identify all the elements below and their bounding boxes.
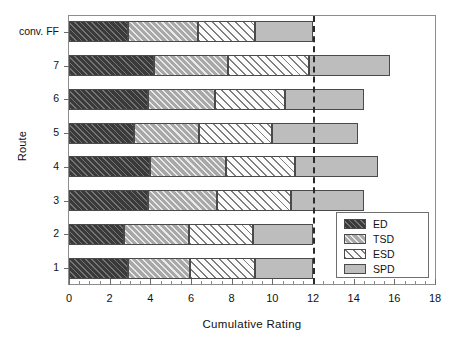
x-tick-major — [232, 279, 233, 285]
x-tick-minor — [405, 281, 406, 285]
x-tick-label: 4 — [137, 292, 163, 304]
x-tick-major — [394, 279, 395, 285]
legend-swatch-esd — [344, 249, 366, 259]
legend-item: TSD — [344, 232, 428, 246]
x-tick-label: 2 — [97, 292, 123, 304]
bar-segment-tsd — [154, 55, 227, 76]
y-tick-label: 2 — [0, 227, 59, 239]
x-tick-major — [435, 279, 436, 285]
x-tick-minor — [222, 281, 223, 285]
x-tick-minor — [425, 281, 426, 285]
legend-swatch-ed — [344, 219, 366, 229]
bar-segment-spd — [255, 21, 313, 42]
y-tick-label: conv. FF — [0, 25, 59, 37]
y-tick-label: 3 — [0, 194, 59, 206]
bar-segment-tsd — [148, 190, 217, 211]
bar-segment-ed — [69, 123, 134, 144]
legend-swatch-spd — [344, 264, 366, 274]
bar-segment-tsd — [124, 224, 189, 245]
bar-segment-spd — [253, 224, 313, 245]
y-tick-label: 5 — [0, 126, 59, 138]
x-axis-title: Cumulative Rating — [69, 318, 435, 330]
y-tick-label: 6 — [0, 92, 59, 104]
x-tick-major — [110, 279, 111, 285]
y-tick-label: 1 — [0, 261, 59, 273]
x-tick-major — [150, 279, 151, 285]
x-tick-label: 16 — [381, 292, 407, 304]
y-axis-title: Route — [16, 106, 28, 186]
bar-segment-esd — [190, 258, 255, 279]
bar-segment-ed — [69, 258, 128, 279]
legend-label-esd: ESD — [373, 249, 395, 260]
x-tick-label: 12 — [300, 292, 326, 304]
x-tick-minor — [120, 281, 121, 285]
x-tick-minor — [323, 281, 324, 285]
x-tick-label: 0 — [56, 292, 82, 304]
legend-label-ed: ED — [373, 219, 388, 230]
x-tick-minor — [344, 281, 345, 285]
bar-segment-ed — [69, 224, 124, 245]
x-tick-minor — [79, 281, 80, 285]
x-tick-minor — [303, 281, 304, 285]
bar-segment-spd — [255, 258, 313, 279]
legend-item: ED — [344, 217, 428, 231]
bar-segment-spd — [291, 190, 364, 211]
x-tick-major — [354, 279, 355, 285]
x-tick-major — [191, 279, 192, 285]
bar-segment-tsd — [128, 21, 198, 42]
x-tick-minor — [374, 281, 375, 285]
bar-row — [69, 21, 435, 42]
stacked-bar-chart: Route 024681012141618conv. FF7654321 Cum… — [0, 0, 465, 348]
bar-segment-tsd — [128, 258, 190, 279]
y-tick-label: 4 — [0, 160, 59, 172]
x-tick-minor — [89, 281, 90, 285]
bar-segment-tsd — [134, 123, 199, 144]
x-tick-major — [272, 279, 273, 285]
x-tick-minor — [161, 281, 162, 285]
x-tick-minor — [262, 281, 263, 285]
bar-row — [69, 190, 435, 211]
x-tick-label: 18 — [422, 292, 448, 304]
legend-item: ESD — [344, 247, 428, 261]
x-tick-minor — [415, 281, 416, 285]
bar-segment-esd — [228, 55, 309, 76]
bar-segment-tsd — [148, 89, 215, 110]
legend-swatch-tsd — [344, 234, 366, 244]
x-tick-label: 10 — [259, 292, 285, 304]
y-tick-label: 7 — [0, 59, 59, 71]
bar-segment-ed — [69, 190, 148, 211]
bar-segment-spd — [285, 89, 364, 110]
x-tick-minor — [130, 281, 131, 285]
bar-row — [69, 123, 435, 144]
bar-segment-spd — [309, 55, 390, 76]
x-tick-major — [69, 279, 70, 285]
x-tick-minor — [252, 281, 253, 285]
x-tick-minor — [171, 281, 172, 285]
x-tick-minor — [384, 281, 385, 285]
bar-segment-esd — [215, 89, 284, 110]
bar-segment-ed — [69, 55, 154, 76]
x-tick-minor — [201, 281, 202, 285]
bar-row — [69, 156, 435, 177]
bar-segment-spd — [295, 156, 378, 177]
bar-segment-ed — [69, 21, 128, 42]
x-tick-minor — [242, 281, 243, 285]
x-tick-minor — [364, 281, 365, 285]
bar-segment-tsd — [150, 156, 225, 177]
x-tick-label: 14 — [341, 292, 367, 304]
x-tick-minor — [181, 281, 182, 285]
x-tick-label: 6 — [178, 292, 204, 304]
legend-label-spd: SPD — [373, 264, 395, 275]
x-tick-minor — [333, 281, 334, 285]
x-tick-label: 8 — [219, 292, 245, 304]
bar-segment-esd — [199, 123, 272, 144]
bar-row — [69, 89, 435, 110]
bar-segment-esd — [226, 156, 295, 177]
x-tick-minor — [283, 281, 284, 285]
x-tick-minor — [100, 281, 101, 285]
bar-row — [69, 55, 435, 76]
bar-segment-esd — [217, 190, 290, 211]
bar-segment-ed — [69, 156, 150, 177]
x-tick-minor — [140, 281, 141, 285]
bar-segment-spd — [272, 123, 357, 144]
